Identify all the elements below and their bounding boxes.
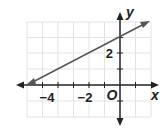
x-tick-label-neg2: −2 [78,90,93,105]
x-axis-label: x [150,87,160,103]
x-axis-left-arrow-icon [16,82,24,89]
line-right-arrow-icon [140,21,150,28]
y-tick-label-2: 2 [106,46,113,61]
origin-label: O [107,87,118,103]
y-axis-up-arrow-icon [117,12,124,20]
coordinate-plane: −4 −2 2 O x y [0,0,166,134]
x-tick-label-neg4: −4 [40,90,56,105]
data-line [27,23,146,85]
y-axis-down-arrow-icon [117,118,124,126]
y-axis-label: y [125,4,135,20]
